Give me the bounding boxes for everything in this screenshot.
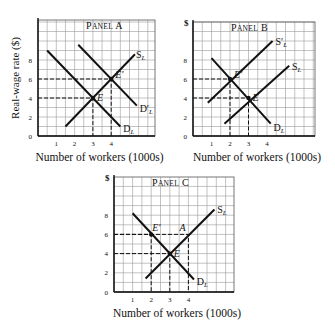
curve-label: DL bbox=[123, 123, 134, 136]
curve-label: D′L bbox=[140, 103, 153, 116]
y-axis-title: Real-wage rate ($) bbox=[9, 37, 22, 119]
x-tick-label: 2 bbox=[73, 140, 77, 148]
y-tick-label: 6 bbox=[184, 76, 188, 84]
curve-label: DL bbox=[274, 122, 285, 135]
y-tick-label: 6 bbox=[29, 76, 33, 84]
x-axis-title: Number of workers (1000s) bbox=[113, 307, 241, 320]
y-tick-label: 4 bbox=[105, 250, 109, 258]
plot-frame bbox=[38, 20, 155, 136]
y-tick-label: 8 bbox=[184, 57, 188, 65]
point-label: E bbox=[96, 92, 103, 103]
x-tick-label: 2 bbox=[149, 296, 153, 304]
x-axis-title: Number of workers (1000s) bbox=[35, 151, 163, 164]
curve-dl bbox=[78, 45, 137, 106]
y-tick-label: 2 bbox=[105, 269, 109, 277]
equilibrium-point bbox=[109, 77, 113, 81]
y-tick-label: 6 bbox=[105, 231, 109, 239]
x-tick-label: 1 bbox=[210, 140, 214, 148]
x-tick-label: 2 bbox=[228, 140, 232, 148]
y-tick-label: 8 bbox=[105, 212, 109, 220]
y-tick-label: 4 bbox=[184, 95, 188, 103]
point-label: E bbox=[173, 248, 180, 259]
panel-title: PANEL A bbox=[86, 20, 123, 31]
point-label: E' bbox=[233, 69, 243, 80]
point-label: A bbox=[178, 222, 186, 233]
x-axis-title: Number of workers (1000s) bbox=[193, 151, 321, 164]
equilibrium-point bbox=[91, 96, 95, 100]
x-tick-label: 1 bbox=[131, 296, 135, 304]
dollar-axis-label: $ bbox=[105, 173, 110, 183]
y-tick-label: 2 bbox=[29, 114, 33, 122]
x-tick-label: 4 bbox=[109, 140, 113, 148]
point-label: E' bbox=[151, 222, 161, 233]
curve-label: DL bbox=[197, 276, 208, 289]
x-tick-label: 4 bbox=[265, 140, 269, 148]
y-tick-label: 0 bbox=[105, 289, 109, 297]
curve-label: SL bbox=[136, 49, 146, 62]
y-tick-label: 0 bbox=[184, 133, 188, 141]
panel-title: PANEL B bbox=[231, 22, 268, 33]
x-tick-label: 3 bbox=[168, 296, 172, 304]
x-tick-label: 3 bbox=[247, 140, 251, 148]
y-tick-label: 4 bbox=[29, 95, 33, 103]
panel-a: EE'SLD′LDL024681234PANEL AReal-wage rate… bbox=[9, 18, 164, 164]
dollar-axis-label: $ bbox=[184, 18, 189, 28]
point-label: E bbox=[252, 92, 259, 103]
labor-market-charts: EE'SLD′LDL024681234PANEL AReal-wage rate… bbox=[0, 0, 335, 323]
curve-sl bbox=[65, 54, 135, 126]
equilibrium-point bbox=[228, 77, 232, 81]
panel-title: PANEL C bbox=[152, 177, 189, 188]
panel-b: E'ES′LSLDL024681234PANEL B$Number of wor… bbox=[184, 18, 322, 164]
x-tick-label: 4 bbox=[187, 296, 191, 304]
x-tick-label: 3 bbox=[91, 140, 95, 148]
y-tick-label: 2 bbox=[184, 114, 188, 122]
y-tick-label: 8 bbox=[29, 57, 33, 65]
curve-label: SL bbox=[292, 61, 302, 74]
equilibrium-point bbox=[168, 251, 172, 255]
y-tick-label: 0 bbox=[29, 133, 33, 141]
equilibrium-point bbox=[246, 96, 250, 100]
grid bbox=[38, 20, 155, 136]
x-tick-label: 1 bbox=[55, 140, 59, 148]
point-label: E' bbox=[114, 69, 124, 80]
panel-c: E'AESLDL024681234PANEL C$Number of worke… bbox=[105, 173, 242, 320]
